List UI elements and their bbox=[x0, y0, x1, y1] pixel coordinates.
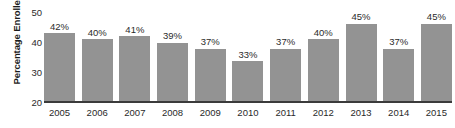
bar-slot: 45% bbox=[421, 8, 452, 101]
bar-slot: 37% bbox=[270, 8, 301, 101]
bar-value-label: 33% bbox=[238, 50, 257, 60]
x-tick-label: 2008 bbox=[157, 108, 188, 118]
bar-series: 42%40%41%39%37%33%37%40%45%37%45% bbox=[44, 8, 452, 101]
y-axis-title: Percentage Enrolled bbox=[11, 0, 22, 92]
bar-value-label: 45% bbox=[351, 12, 370, 22]
bar-value-label: 45% bbox=[427, 12, 446, 22]
bar-value-label: 42% bbox=[50, 22, 69, 32]
bar bbox=[383, 49, 414, 102]
x-tick-label: 2015 bbox=[421, 108, 452, 118]
bar-slot: 37% bbox=[383, 8, 414, 101]
x-tick-label: 2009 bbox=[195, 108, 226, 118]
x-axis-tick-labels: 2005200620072008200920102011201220132014… bbox=[44, 108, 452, 118]
bar-slot: 40% bbox=[82, 8, 113, 101]
bar-slot: 33% bbox=[232, 8, 263, 101]
bar bbox=[346, 24, 377, 102]
bar-value-label: 40% bbox=[88, 28, 107, 38]
bar-value-label: 37% bbox=[276, 37, 295, 47]
bar-slot: 45% bbox=[346, 8, 377, 101]
bar-value-label: 37% bbox=[201, 37, 220, 47]
bar bbox=[232, 61, 263, 101]
x-tick-label: 2011 bbox=[270, 108, 301, 118]
x-tick-label: 2014 bbox=[383, 108, 414, 118]
bar-value-label: 41% bbox=[125, 25, 144, 35]
bar-slot: 41% bbox=[119, 8, 150, 101]
bar-slot: 39% bbox=[157, 8, 188, 101]
bar bbox=[157, 43, 188, 102]
bar bbox=[195, 49, 226, 102]
bar-slot: 37% bbox=[195, 8, 226, 101]
x-tick-label: 2010 bbox=[232, 108, 263, 118]
y-tick-label-30: 30 bbox=[31, 68, 42, 78]
bar-value-label: 39% bbox=[163, 31, 182, 41]
bar bbox=[82, 39, 113, 101]
bar-slot: 42% bbox=[44, 8, 75, 101]
bar-slot: 40% bbox=[308, 8, 339, 101]
bar-chart: Percentage Enrolled 50 40 30 20 42%40%41… bbox=[0, 0, 455, 128]
x-axis-line bbox=[44, 101, 452, 103]
bar-value-label: 40% bbox=[314, 28, 333, 38]
y-tick-label-50: 50 bbox=[31, 8, 42, 18]
x-tick-label: 2012 bbox=[308, 108, 339, 118]
x-tick-label: 2007 bbox=[119, 108, 150, 118]
bar bbox=[270, 49, 301, 102]
plot-area: 42%40%41%39%37%33%37%40%45%37%45% bbox=[44, 8, 452, 103]
bar bbox=[44, 33, 75, 101]
bar bbox=[119, 36, 150, 101]
bar-value-label: 37% bbox=[389, 37, 408, 47]
x-tick-label: 2005 bbox=[44, 108, 75, 118]
x-tick-label: 2006 bbox=[82, 108, 113, 118]
y-tick-label-40: 40 bbox=[31, 38, 42, 48]
y-axis-tick-labels: 50 40 30 20 bbox=[22, 0, 42, 128]
bar bbox=[421, 24, 452, 102]
bar bbox=[308, 39, 339, 101]
y-tick-label-20: 20 bbox=[31, 98, 42, 108]
x-tick-label: 2013 bbox=[346, 108, 377, 118]
